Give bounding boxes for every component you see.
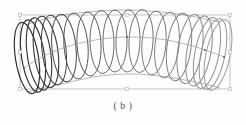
coil-ring[interactable] [115,10,141,73]
coil-ring[interactable] [127,9,154,73]
handle-top-right[interactable] [228,13,231,16]
coil-axis-node[interactable] [223,56,225,58]
figure-container: ( b ) [0,0,246,125]
handle-middle-right[interactable] [228,50,231,53]
coil-ring[interactable] [75,11,102,76]
coil-rings-group[interactable] [10,9,237,95]
handle-top-left[interactable] [18,13,21,16]
coil-ring[interactable] [194,16,232,91]
coil-axis-node[interactable] [126,36,128,38]
coil-axis-node[interactable] [204,49,206,51]
coil-ring[interactable] [89,10,115,74]
handle-bottom-right[interactable] [228,87,231,90]
handle-middle-left[interactable] [18,50,21,53]
handle-top-center[interactable] [125,13,128,16]
coil-axis-node[interactable] [23,67,25,69]
coil-ring[interactable] [29,15,62,90]
handle-bottom-center[interactable] [125,87,128,90]
coil-drawing-canvas[interactable] [0,0,246,104]
coil-viewport[interactable] [0,0,246,104]
coil-ring[interactable] [103,10,127,72]
handle-bottom-left[interactable] [18,87,21,90]
coil-ring[interactable] [140,10,169,76]
figure-caption: ( b ) [0,101,246,111]
